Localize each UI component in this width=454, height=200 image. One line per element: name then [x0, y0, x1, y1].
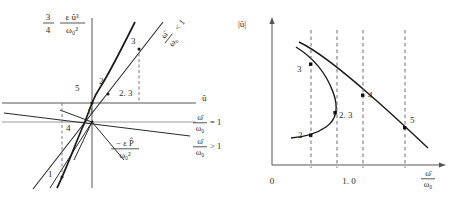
omega-lt-1-slope-line — [33, 22, 163, 189]
omega-gt-1-slope-line — [4, 113, 190, 136]
right-marker-point-4 — [361, 94, 364, 97]
omega-gt-1-denominator: ω₀ — [196, 147, 205, 157]
omega-gt-1-numerator: ω̄ — [197, 136, 205, 146]
marker-point-4 — [91, 121, 94, 124]
right-point-label-2: 2 — [298, 130, 303, 140]
marker-point-1 — [61, 176, 64, 179]
point-label-5: 5 — [75, 83, 80, 93]
point-label-0: 0 — [88, 106, 93, 116]
right-marker-point-2-3 — [333, 111, 336, 114]
marker-point-2 — [107, 93, 110, 96]
omega-eq-1-denominator: ω₀ — [196, 123, 205, 133]
right-xtick-1: 1. 0 — [342, 176, 356, 186]
right-panel: |û| 0 1. 0 ω̄ ω₀ 2 3 2. 3 4 5 — [238, 17, 446, 189]
right-marker-point-3 — [309, 63, 312, 66]
point-label-2: 2 — [99, 76, 104, 86]
point-label-1: 1 — [48, 169, 53, 179]
neg-eps-p-denominator: ω₀² — [119, 150, 131, 160]
right-point-label-4: 4 — [368, 90, 373, 100]
marker-point-3 — [138, 48, 141, 51]
neg-eps-p-label-group: − ε P̂ ω₀² — [111, 137, 139, 160]
right-point-label-3: 3 — [297, 64, 302, 74]
right-xtick-0: 0 — [270, 176, 275, 186]
omega-gt-1-label-group: ω̄ ω₀ > 1 — [193, 136, 221, 157]
right-xlabel-group: ω̄ ω₀ — [421, 168, 435, 189]
figure-root: 3 4 ε û³ ω₀² û ω̄ ω₀ < 1 ω̄ ω₀ = 1 ω̄ ω₀… — [0, 0, 454, 200]
ylabel-numerator: ε û³ — [65, 12, 79, 22]
right-marker-point-5 — [403, 126, 406, 129]
xlabel-u-hat: û — [202, 93, 207, 103]
right-marker-point-2 — [309, 134, 312, 137]
omega-eq-1-numerator: ω̄ — [197, 112, 205, 122]
right-point-label-2-3: 2. 3 — [339, 110, 353, 120]
ylabel-denominator: ω₀² — [66, 25, 78, 35]
omega-gt-1-relation: > 1 — [210, 141, 221, 151]
ylabel-coef-denominator: 4 — [46, 25, 51, 35]
left-panel: 3 4 ε û³ ω₀² û ω̄ ω₀ < 1 ω̄ ω₀ = 1 ω̄ ω₀… — [2, 12, 221, 189]
point-label-2-3: 2. 3 — [119, 88, 133, 98]
neg-eps-p-numerator: − ε P̂ — [116, 137, 134, 148]
omega-lt-1-relation: < 1 — [172, 17, 187, 32]
marker-origin — [90, 101, 93, 104]
right-xlabel-numerator: ω̄ — [425, 168, 433, 178]
point-label-4: 4 — [66, 123, 71, 133]
cubic-curve — [57, 22, 135, 188]
ylabel-coef-numerator: 3 — [46, 12, 51, 22]
right-xlabel-denominator: ω₀ — [424, 179, 433, 189]
omega-eq-1-label-group: ω̄ ω₀ = 1 — [193, 112, 221, 133]
right-y-axis-arrowhead — [269, 17, 274, 24]
omega-eq-1-relation: = 1 — [210, 117, 221, 127]
right-point-label-5: 5 — [410, 115, 415, 125]
right-x-axis-arrowhead — [439, 162, 446, 167]
omega-lt-1-label-group: ω̄ ω₀ < 1 — [156, 14, 191, 50]
figure-svg: 3 4 ε û³ ω₀² û ω̄ ω₀ < 1 ω̄ ω₀ = 1 ω̄ ω₀… — [0, 0, 454, 200]
point-label-3: 3 — [131, 36, 136, 46]
right-ylabel: |û| — [238, 19, 246, 29]
